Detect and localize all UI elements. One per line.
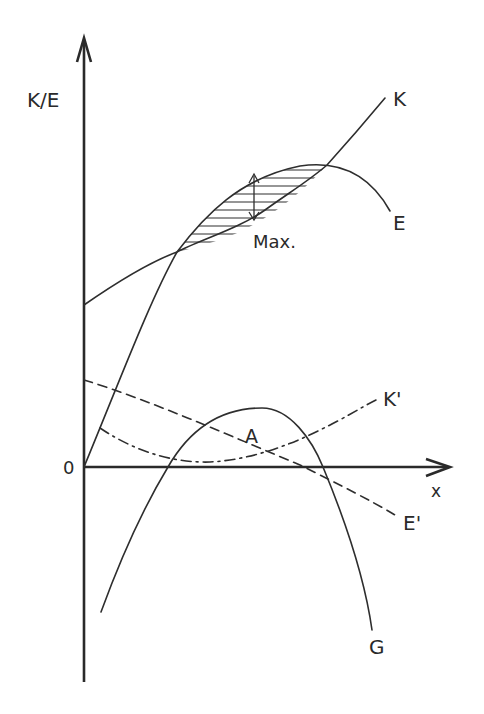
curve-E-prime — [84, 380, 395, 515]
label-E: E — [393, 211, 406, 235]
max-label: Max. — [253, 231, 296, 252]
curve-G — [101, 408, 372, 630]
label-K-prime: K' — [383, 387, 402, 411]
profit-maximization-diagram: K/E 0 x K E K' E' G Max. A — [0, 0, 484, 714]
profit-hatch-region — [150, 170, 340, 250]
area-label-A: A — [245, 425, 258, 447]
label-G: G — [369, 635, 385, 659]
label-K: K — [393, 87, 407, 111]
origin-label: 0 — [63, 457, 74, 478]
curve-E — [84, 165, 390, 305]
y-axis-label: K/E — [27, 88, 60, 112]
x-axis-label: x — [431, 481, 441, 501]
curve-K-prime — [100, 400, 376, 462]
label-E-prime: E' — [403, 511, 421, 535]
